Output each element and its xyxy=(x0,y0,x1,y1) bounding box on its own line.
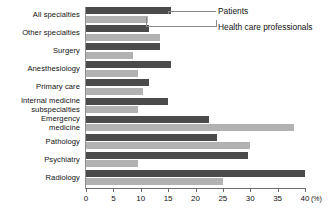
x-axis-tick-label: 25 xyxy=(218,194,227,203)
bar xyxy=(86,178,223,185)
bar xyxy=(86,43,160,50)
category-label-emergency-medicine: Emergency medicine xyxy=(41,115,80,132)
bar-chart: All specialties Other specialties Surger… xyxy=(0,0,336,211)
bar-group xyxy=(86,43,305,61)
category-label-internal-medicine-subspecialties: Internal medicine subspecialties xyxy=(21,97,80,114)
category-label-psychiatry: Psychiatry xyxy=(44,156,80,164)
x-axis-tick-label: 15 xyxy=(164,194,173,203)
leader-line-patients-vertical xyxy=(168,11,169,14)
bar-group xyxy=(86,134,305,152)
legend-label-health-care-professionals: Health care professionals xyxy=(218,22,313,32)
bar xyxy=(86,142,250,149)
x-axis-tick-label: 0 xyxy=(84,194,88,203)
bar xyxy=(86,70,138,77)
leader-line-professionals-horizontal xyxy=(146,26,216,27)
x-axis-tick xyxy=(168,188,169,192)
x-axis-tick-label: 5 xyxy=(111,194,115,203)
x-axis-tick xyxy=(141,188,142,192)
x-axis-tick xyxy=(250,188,251,192)
category-label-anesthesiology: Anesthesiology xyxy=(27,65,80,73)
x-axis-tick-label: 35 xyxy=(273,194,282,203)
x-axis-tick xyxy=(305,188,306,192)
bar xyxy=(86,52,133,59)
bar xyxy=(86,106,138,113)
bar xyxy=(86,124,294,131)
category-label-surgery: Surgery xyxy=(53,47,80,55)
x-axis-unit-label: (%) xyxy=(311,195,322,202)
x-axis-tick xyxy=(86,188,87,192)
bar-group xyxy=(86,116,305,134)
bar xyxy=(86,79,149,86)
bar xyxy=(86,134,217,141)
bar xyxy=(86,116,209,123)
x-axis-tick xyxy=(223,188,224,192)
category-label-pathology: Pathology xyxy=(46,138,80,146)
bar xyxy=(86,98,168,105)
x-axis-tick-label: 30 xyxy=(246,194,255,203)
category-label-radiology: Radiology xyxy=(46,174,80,182)
bar xyxy=(86,61,171,68)
leader-line-professionals-vertical-left xyxy=(146,17,147,27)
bar xyxy=(86,160,138,167)
x-axis-tick-label: 20 xyxy=(191,194,200,203)
leader-line-professionals-vertical xyxy=(216,20,217,27)
bar xyxy=(86,152,248,159)
x-axis-tick-label: 10 xyxy=(136,194,145,203)
bar xyxy=(86,170,305,177)
legend-label-patients: Patients xyxy=(218,6,248,16)
bar-group xyxy=(86,152,305,170)
x-axis-tick xyxy=(113,188,114,192)
x-axis-tick-label: 40 xyxy=(301,194,310,203)
legend: Patients Health care professionals xyxy=(0,0,336,40)
x-axis-tick xyxy=(196,188,197,192)
bar-group xyxy=(86,170,305,188)
bar xyxy=(86,88,143,95)
x-axis-tick xyxy=(278,188,279,192)
bar-group xyxy=(86,79,305,97)
leader-line-patients-horizontal xyxy=(168,11,216,12)
category-label-primary-care: Primary care xyxy=(36,83,80,91)
bar-group xyxy=(86,61,305,79)
bar-group xyxy=(86,98,305,116)
